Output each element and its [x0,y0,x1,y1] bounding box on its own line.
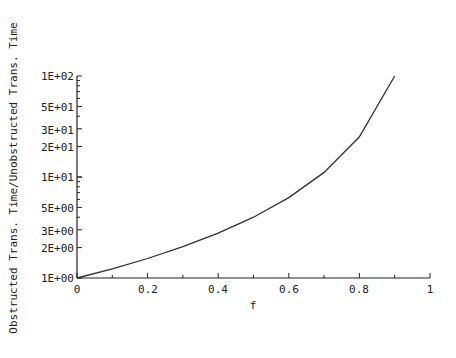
y-axis-ticks [77,76,82,278]
x-axis-ticks [77,273,430,278]
plot-area [0,0,456,358]
data-line [77,76,395,278]
